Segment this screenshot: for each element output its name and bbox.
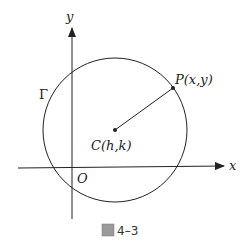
figure-caption: 圖 4–3: [102, 224, 138, 238]
point-p-label: P(x,y): [174, 72, 213, 87]
figure-number: 4–3: [117, 224, 138, 238]
circle-diagram: y x O Γ C(h,k) P(x,y) 圖 4–3: [0, 0, 248, 247]
x-axis: [18, 166, 224, 168]
center-c-label: C(h,k): [91, 138, 131, 153]
x-axis-label: x: [229, 158, 237, 173]
circle-gamma-label: Γ: [39, 87, 48, 102]
origin-label: O: [77, 171, 88, 186]
center-point-c: [113, 128, 117, 132]
y-axis-label: y: [65, 9, 74, 24]
radius-segment-cp: [115, 88, 173, 130]
